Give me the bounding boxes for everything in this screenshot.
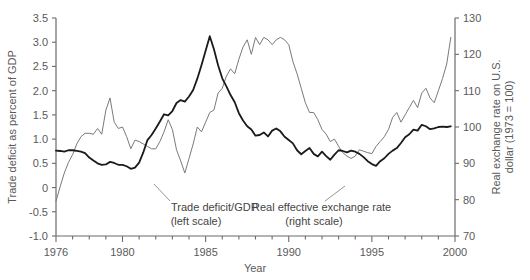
trade-deficit-annotation: Trade deficit/GDP (left scale) (154, 184, 258, 227)
left-tick-label: 0 (42, 182, 48, 194)
trade-deficit-annotation-line1: Trade deficit/GDP (171, 201, 258, 213)
trade-deficit-leader-line (154, 184, 170, 201)
left-axis-title-group: Trade deficit as percent of GDP (6, 50, 18, 204)
left-tick-label: 3.0 (33, 36, 48, 48)
right-tick-label: 70 (463, 230, 475, 242)
x-tick-label: 2000 (443, 246, 467, 258)
right-tick-label: 80 (463, 194, 475, 206)
left-tick-label: 1.0 (33, 133, 48, 145)
x-axis-ticks: 197619801985199019952000 (44, 236, 467, 258)
right-tick-label: 100 (463, 121, 481, 133)
left-tick-label: 2.5 (33, 60, 48, 72)
left-tick-label: 0.5 (33, 157, 48, 169)
right-axis-title-group: Real exchange rate on U.S. dollar (1973 … (490, 59, 515, 194)
left-axis-title: Trade deficit as percent of GDP (6, 50, 18, 204)
exchange-rate-leader-line (325, 186, 345, 201)
right-tick-label: 90 (463, 157, 475, 169)
right-tick-label: 130 (463, 12, 481, 24)
trade-deficit-annotation-line2: (left scale) (171, 215, 222, 227)
left-tick-label: -0.5 (29, 206, 48, 218)
right-axis-title-line1: Real exchange rate on U.S. (490, 59, 502, 194)
exchange-rate-annotation-line2: (right scale) (285, 215, 342, 227)
series-line-trade-deficit (56, 37, 451, 201)
right-tick-label: 120 (463, 48, 481, 60)
left-axis-ticks: 3.53.02.52.01.51.00.50-0.5-1.0 (29, 12, 56, 242)
x-axis-title: Year (244, 262, 267, 274)
x-tick-label: 1990 (277, 246, 301, 258)
left-tick-label: 3.5 (33, 12, 48, 24)
data-series-layer (56, 36, 451, 201)
right-tick-label: 110 (463, 85, 481, 97)
figure-container: 3.53.02.52.01.51.00.50-0.5-1.0 130120110… (0, 0, 530, 280)
exchange-rate-annotation: Real effective exchange rate (right scal… (252, 186, 391, 227)
right-axis-ticks: 130120110100908070 (455, 12, 481, 242)
left-tick-label: 2.0 (33, 85, 48, 97)
x-tick-label: 1980 (110, 246, 134, 258)
exchange-rate-annotation-line1: Real effective exchange rate (252, 201, 391, 213)
x-tick-label: 1995 (360, 246, 384, 258)
x-tick-label: 1985 (193, 246, 217, 258)
x-tick-label: 1976 (44, 246, 68, 258)
left-tick-label: 1.5 (33, 109, 48, 121)
trade-deficit-exchange-rate-chart: 3.53.02.52.01.51.00.50-0.5-1.0 130120110… (0, 0, 530, 280)
left-tick-label: -1.0 (29, 230, 48, 242)
right-axis-title-line2: dollar (1973 = 100) (503, 81, 515, 174)
series-line-exchange-rate (56, 36, 451, 169)
